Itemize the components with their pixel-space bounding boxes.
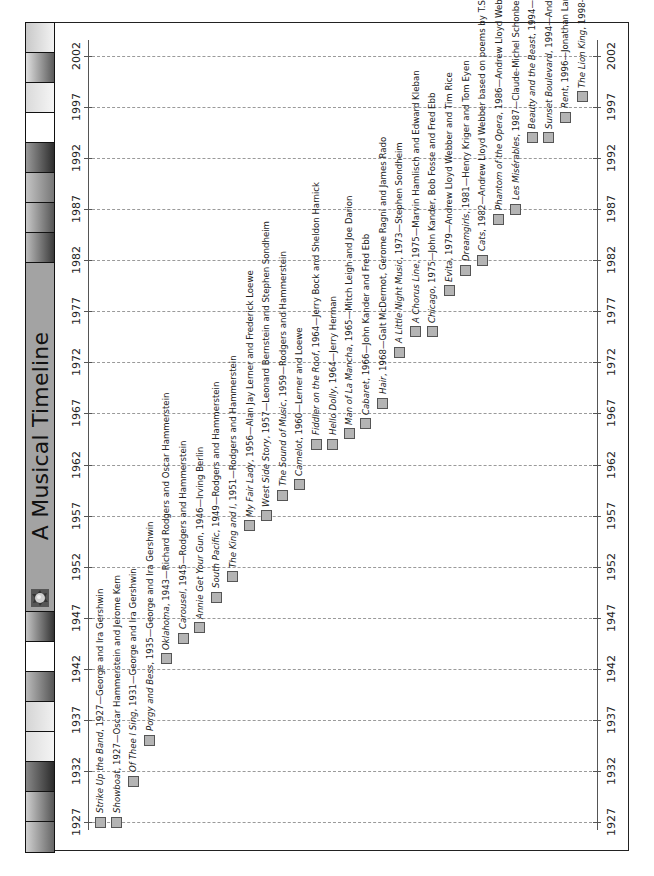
event-marker <box>194 622 205 633</box>
event-marker <box>510 204 521 215</box>
left-tick <box>84 618 92 619</box>
right-year-label: 1997 <box>605 93 618 121</box>
show-title: Sunset Boulevard <box>544 53 554 129</box>
left-year-label: 1947 <box>70 604 83 632</box>
event-marker <box>311 439 322 450</box>
event-marker <box>211 592 222 603</box>
show-title: Carousel <box>178 591 188 629</box>
event-marker <box>294 479 305 490</box>
event-label: Hair, 1968—Galt McDermot, Gerome Ragni a… <box>378 137 388 394</box>
event-label: The Lion King, 1998—Elton John and Tim R… <box>577 0 587 88</box>
left-tick <box>84 209 92 210</box>
banner-segment <box>25 202 55 234</box>
show-title: West Side Story <box>261 438 271 506</box>
left-year-label: 1927 <box>70 808 83 836</box>
show-title: Of Thee I Sing <box>128 712 138 773</box>
show-credits: , 1960—Lerner and Loewe <box>294 327 304 440</box>
show-credits: , 1979—Andrew Lloyd Webber and Tim Rice <box>444 72 454 260</box>
show-title: Hello Dolly <box>328 389 338 435</box>
show-title: Beauty and the Beast <box>527 36 537 129</box>
event-label: My Fair Lady, 1956—Alan Jay Lerner and F… <box>245 270 255 517</box>
event-marker <box>444 285 455 296</box>
show-title: Phantom of the Opera <box>494 115 504 210</box>
right-tick <box>593 669 601 670</box>
left-tick <box>84 311 92 312</box>
right-year-label: 1942 <box>605 655 618 683</box>
event-label: Dreamgirls, 1981—Henry Kriger and Tom Ey… <box>461 61 471 262</box>
show-credits: , 1956—Alan Jay Lerner and Frederick Loe… <box>245 270 255 462</box>
event-marker <box>427 326 438 337</box>
show-title: Chicago <box>427 288 437 323</box>
left-year-label: 2002 <box>70 42 83 70</box>
right-tick <box>593 311 601 312</box>
right-year-label: 2002 <box>605 42 618 70</box>
show-title: Hair <box>378 377 388 395</box>
show-title: The King and I <box>228 506 238 568</box>
event-label: Oklahoma, 1943—Richard Rodgers and Oscar… <box>161 392 171 649</box>
event-marker <box>244 520 255 531</box>
left-year-label: 1977 <box>70 297 83 325</box>
left-tick <box>84 362 92 363</box>
right-year-label: 1987 <box>605 195 618 223</box>
gridline <box>92 822 592 823</box>
event-label: Carousel, 1945—Rodgers and Hammerstein <box>178 441 188 630</box>
banner-segment <box>25 701 55 733</box>
right-year-label: 1962 <box>605 451 618 479</box>
show-title: A Chorus Line <box>411 263 421 322</box>
left-tick <box>84 567 92 568</box>
event-marker <box>560 112 571 123</box>
right-year-label: 1977 <box>605 297 618 325</box>
event-marker <box>360 418 371 429</box>
event-label: Les Misérables, 1987—Claude-Michel Schon… <box>511 0 521 200</box>
right-year-label: 1927 <box>605 808 618 836</box>
left-tick <box>84 413 92 414</box>
show-title: My Fair Lady <box>245 462 255 517</box>
show-title: Cats <box>477 232 487 251</box>
right-tick <box>593 567 601 568</box>
show-title: Cabaret <box>361 380 371 414</box>
event-label: Rent, 1996—Jonathan Larson <box>560 0 570 108</box>
show-credits: , 1982—Andrew Lloyd Webber based on poem… <box>477 0 487 232</box>
gridline <box>92 669 592 670</box>
event-marker <box>527 132 538 143</box>
event-label: Strike Up the Band, 1927—George and Ira … <box>95 589 105 813</box>
left-tick <box>84 465 92 466</box>
show-credits: , 1943—Richard Rodgers and Oscar Hammers… <box>161 392 171 606</box>
event-marker <box>493 214 504 225</box>
right-year-label: 1932 <box>605 757 618 785</box>
show-credits: , 1994—Alan Menken, Howard Ashman and Ti… <box>527 0 537 36</box>
banner-segment <box>25 671 55 703</box>
show-title: Evita <box>444 260 454 282</box>
right-year-label: 1952 <box>605 553 618 581</box>
right-tick <box>593 260 601 261</box>
right-tick <box>593 822 601 823</box>
event-label: Man of La Mancha, 1965—Mitch Leigh and J… <box>344 195 354 424</box>
show-title: Showboat <box>112 770 122 813</box>
left-tick <box>84 822 92 823</box>
left-year-label: 1972 <box>70 348 83 376</box>
event-label: Annie Get Your Gun, 1946—Irving Berlin <box>195 447 205 619</box>
show-credits: , 1975—Marvin Hamlisch and Edward Kleban <box>411 70 421 263</box>
event-marker <box>277 490 288 501</box>
show-title: South Pacific <box>211 533 221 589</box>
event-label: South Pacific, 1949—Rodgers and Hammerst… <box>211 382 221 588</box>
left-tick <box>84 260 92 261</box>
event-marker <box>95 817 106 828</box>
left-tick <box>84 771 92 772</box>
show-credits: , 1951—Rodgers and Hammerstein <box>228 355 238 506</box>
theater-mask-icon <box>31 589 49 607</box>
left-year-label: 1967 <box>70 399 83 427</box>
banner-segment <box>25 232 55 264</box>
left-year-label: 1932 <box>70 757 83 785</box>
show-title: Fiddler on the Roof <box>311 353 321 435</box>
show-credits: , 1945—Rodgers and Hammerstein <box>178 441 188 592</box>
left-year-label: 1952 <box>70 553 83 581</box>
left-tick <box>84 56 92 57</box>
right-tick <box>593 107 601 108</box>
show-title: Rent <box>560 88 570 108</box>
event-label: Porgy and Bess, 1935—George and Ira Gers… <box>145 522 155 732</box>
show-credits: , 1965—Mitch Leigh and Joe Darion <box>344 195 354 346</box>
show-title: A Little Night Music <box>394 260 404 343</box>
show-credits: , 1935—George and Ira Gershwin <box>145 522 155 665</box>
show-title: Man of La Mancha <box>344 347 354 425</box>
